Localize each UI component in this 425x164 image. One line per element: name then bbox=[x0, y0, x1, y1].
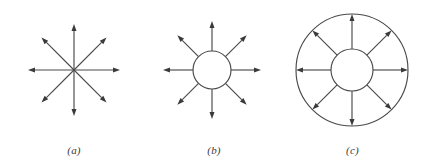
arrow-135 bbox=[312, 30, 337, 55]
arrow-180 bbox=[163, 68, 193, 73]
arrow-270 bbox=[350, 91, 355, 126]
panel-a: (a) bbox=[0, 0, 148, 164]
panel-b-caption: (b) bbox=[148, 144, 280, 156]
arrow-270 bbox=[72, 70, 77, 116]
arrow-45 bbox=[74, 37, 107, 70]
arrow-shaft bbox=[225, 40, 241, 56]
figure-container: (a) (b) (c) bbox=[0, 0, 425, 164]
arrow-90 bbox=[210, 21, 215, 51]
arrow-0 bbox=[74, 68, 120, 73]
arrow-head-icon bbox=[254, 68, 261, 73]
arrow-shaft bbox=[317, 35, 337, 55]
arrow-180 bbox=[28, 68, 74, 73]
arrow-shaft bbox=[317, 85, 337, 105]
arrow-45 bbox=[225, 35, 246, 56]
panel-c-caption: (c) bbox=[280, 144, 425, 156]
arrow-shaft bbox=[46, 70, 74, 98]
arrow-head-icon bbox=[72, 24, 77, 31]
arrow-315 bbox=[74, 70, 107, 103]
arrow-shaft bbox=[367, 35, 387, 55]
panel-b-diagram bbox=[148, 0, 280, 130]
arrow-head-icon bbox=[163, 68, 170, 73]
arrow-225 bbox=[177, 83, 198, 104]
arrow-90 bbox=[350, 14, 355, 49]
arrow-225 bbox=[312, 85, 337, 110]
arrow-head-icon bbox=[210, 21, 215, 28]
panel-c: (c) bbox=[280, 0, 425, 164]
panel-c-diagram bbox=[280, 0, 425, 130]
arrow-head-icon bbox=[350, 14, 355, 21]
arrow-shaft bbox=[46, 42, 74, 70]
arrow-head-icon bbox=[28, 68, 35, 73]
arrow-head-icon bbox=[72, 109, 77, 116]
arrow-135 bbox=[41, 37, 74, 70]
arrow-head-icon bbox=[401, 68, 408, 73]
arrow-head-icon bbox=[350, 119, 355, 126]
arrow-135 bbox=[177, 35, 198, 56]
arrow-0 bbox=[373, 68, 408, 73]
arrow-head-icon bbox=[113, 68, 120, 73]
arrow-shaft bbox=[182, 40, 198, 56]
arrow-shaft bbox=[182, 83, 198, 99]
arrow-head-icon bbox=[296, 68, 303, 73]
arrow-45 bbox=[367, 30, 392, 55]
arrow-90 bbox=[72, 24, 77, 70]
arrow-shaft bbox=[225, 83, 241, 99]
arrow-shaft bbox=[74, 42, 102, 70]
inner-circle bbox=[331, 49, 373, 91]
panel-b: (b) bbox=[148, 0, 280, 164]
arrow-head-icon bbox=[210, 112, 215, 119]
arrow-shaft bbox=[367, 85, 387, 105]
arrow-225 bbox=[41, 70, 74, 103]
inner-circle bbox=[193, 51, 231, 89]
arrow-315 bbox=[225, 83, 246, 104]
panel-a-caption: (a) bbox=[0, 144, 148, 156]
arrow-270 bbox=[210, 89, 215, 119]
arrow-315 bbox=[367, 85, 392, 110]
arrow-0 bbox=[231, 68, 261, 73]
panel-a-diagram bbox=[0, 0, 148, 130]
arrow-180 bbox=[296, 68, 331, 73]
arrow-shaft bbox=[74, 70, 102, 98]
